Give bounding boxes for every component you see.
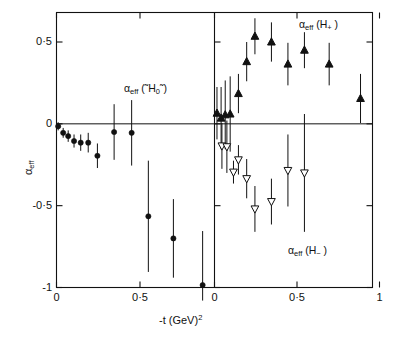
annotation-rt-close: ) (332, 18, 338, 30)
right-panel-data (213, 18, 364, 232)
x-axis-title-sup: 2 (198, 313, 202, 322)
figure-alpha-eff-vs-t: 0·50-0·5-1 00·500·51 αeff -t (GeV)2 αeff… (0, 0, 393, 337)
axis-ticks (57, 13, 380, 288)
annotation-rt-open: (H (313, 18, 327, 30)
y-axis-title-alpha: α (22, 169, 34, 175)
annotation-rb-close: ) (321, 244, 327, 256)
plot-canvas (0, 0, 393, 337)
y-tick-label: 0·5 (20, 35, 52, 47)
y-tick-label: -0·5 (20, 199, 52, 211)
annotation-alpha-eff-Hplus: αeff (H+ ) (299, 18, 338, 32)
y-tick-label: 0 (20, 117, 52, 129)
annotation-left-open: (˜H (138, 82, 156, 94)
annotation-rb-open: (H (302, 244, 316, 256)
x-tick-label: 0·5 (277, 291, 317, 303)
annotation-left-close: ˜) (160, 82, 167, 94)
x-tick-label: 0·5 (120, 291, 160, 303)
x-axis-title: -t (GeV)2 (159, 313, 202, 326)
x-axis-title-main: -t (GeV) (159, 314, 198, 326)
annotation-alpha-eff-H0tilde: αeff (˜H0˜) (124, 82, 167, 96)
x-tick-label: 1 (360, 291, 393, 303)
y-axis-title: αeff (22, 160, 36, 175)
x-tick-label: 0 (37, 291, 77, 303)
left-panel-data (56, 100, 206, 300)
annotation-alpha-eff-Hminus: αeff (H− ) (288, 244, 327, 258)
x-tick-label: 0 (195, 291, 235, 303)
y-axis-title-sub: eff (27, 160, 36, 168)
